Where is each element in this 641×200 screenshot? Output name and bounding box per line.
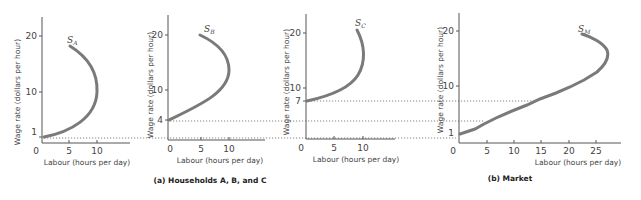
y-tick-a-10: 10 (26, 87, 38, 97)
curve-label-b: SB (204, 24, 215, 35)
x-axis-label-b: Labour (hours per day) (177, 156, 263, 165)
caption-market: (b) Market (488, 174, 533, 183)
y-tick-c-7: 7 (295, 96, 301, 106)
axes-a (42, 17, 130, 143)
x-axis-label-m: Labour (hours per day) (535, 158, 621, 167)
y-axis-label-a: Wage rate (dollars per hour) (13, 39, 22, 145)
y-axis-label-c: Wage rate (dollars per hour) (282, 29, 291, 135)
panel-market: Wage rate (dollars per hour) 20 10 1 0 5… (436, 13, 621, 167)
y-tick-a-1: 1 (31, 127, 37, 137)
x-tick-c-10: 10 (357, 143, 369, 153)
x-tick-a-10: 10 (91, 146, 103, 156)
axes-c (306, 14, 395, 139)
x-tick-a-5: 5 (66, 146, 72, 156)
x-tick-m-20: 20 (563, 146, 575, 156)
supply-curve-c (307, 30, 364, 101)
x-tick-a-0: 0 (33, 146, 39, 156)
x-tick-b-5: 5 (198, 144, 204, 154)
x-tick-c-5: 5 (331, 143, 337, 153)
y-tick-b-10: 10 (152, 85, 164, 95)
y-axis-label-m: Wage rate (dollars per hour) (436, 27, 445, 133)
curve-label-c: SC (355, 18, 366, 29)
panel-household-a: Wage rate (dollars per hour) 20 10 1 0 5… (13, 17, 130, 167)
panel-household-c: Wage rate (dollars per hour) 20 10 7 0 5… (282, 14, 399, 164)
supply-curve-a (44, 46, 97, 137)
x-tick-c-0: 0 (298, 143, 304, 153)
y-tick-m-20: 20 (443, 26, 455, 36)
y-tick-m-10: 10 (443, 81, 455, 91)
caption-households: (a) Households A, B, and C (154, 176, 267, 185)
supply-curve-market (460, 34, 608, 134)
y-tick-c-10: 10 (290, 83, 302, 93)
x-tick-m-10: 10 (508, 146, 520, 156)
x-tick-m-5: 5 (484, 146, 490, 156)
y-tick-m-1: 1 (448, 128, 454, 138)
x-tick-m-0: 0 (450, 146, 456, 156)
supply-curves-figure: Wage rate (dollars per hour) 20 10 1 0 5… (0, 0, 641, 200)
x-axis-label-c: Labour (hours per day) (313, 155, 399, 164)
x-tick-m-15: 15 (535, 146, 546, 156)
x-axis-label-a: Labour (hours per day) (44, 158, 130, 167)
supply-curve-b (169, 35, 229, 120)
curve-label-m: SM (578, 24, 591, 35)
y-tick-b-4: 4 (157, 115, 163, 125)
panel-household-b: Wage rate (dollars per hour) 20 10 4 0 5… (146, 15, 265, 165)
x-tick-m-25: 25 (590, 146, 601, 156)
y-tick-b-20: 20 (152, 30, 164, 40)
y-tick-a-20: 20 (26, 31, 38, 41)
x-tick-b-10: 10 (223, 144, 235, 154)
y-tick-c-20: 20 (290, 28, 302, 38)
x-tick-b-0: 0 (167, 144, 173, 154)
curve-label-a: SA (67, 35, 78, 46)
